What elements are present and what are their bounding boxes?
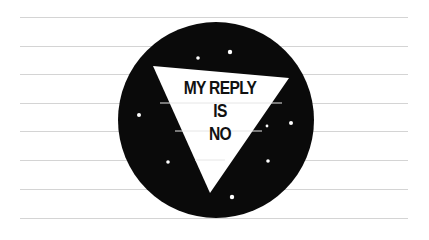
- answer-line-2: IS: [179, 99, 261, 122]
- answer-line-1: MY REPLY: [179, 76, 261, 99]
- answer-line-3: NO: [179, 122, 261, 145]
